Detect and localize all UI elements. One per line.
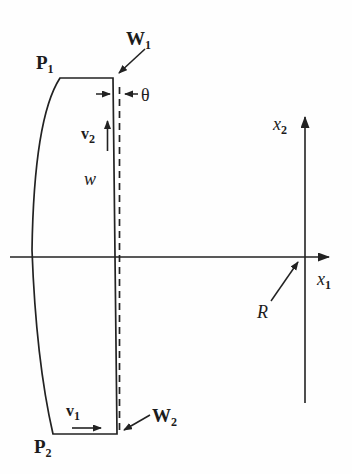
w2-pointer-arrow-icon (124, 415, 150, 430)
plate-outline (32, 78, 117, 434)
plate-rotation-diagram: P1 P2 W1 W2 θ v2 v1 w R x1 x2 (0, 0, 352, 474)
r-pointer-arrow-icon (271, 262, 298, 301)
label-p1: P1 (36, 52, 54, 76)
label-w2: W2 (152, 405, 177, 429)
label-x1-axis: x1 (316, 269, 331, 292)
label-x2-axis: x2 (272, 114, 287, 137)
label-p2: P2 (34, 436, 52, 460)
label-theta: θ (141, 85, 150, 105)
label-r: R (256, 302, 268, 322)
label-v2: v2 (81, 125, 95, 146)
label-w-displacement: w (84, 169, 96, 189)
w1-pointer-arrow-icon (119, 49, 145, 73)
figure-canvas: P1 P2 W1 W2 θ v2 v1 w R x1 x2 (0, 0, 352, 474)
label-v1: v1 (66, 402, 80, 423)
label-w1: W1 (126, 28, 151, 52)
